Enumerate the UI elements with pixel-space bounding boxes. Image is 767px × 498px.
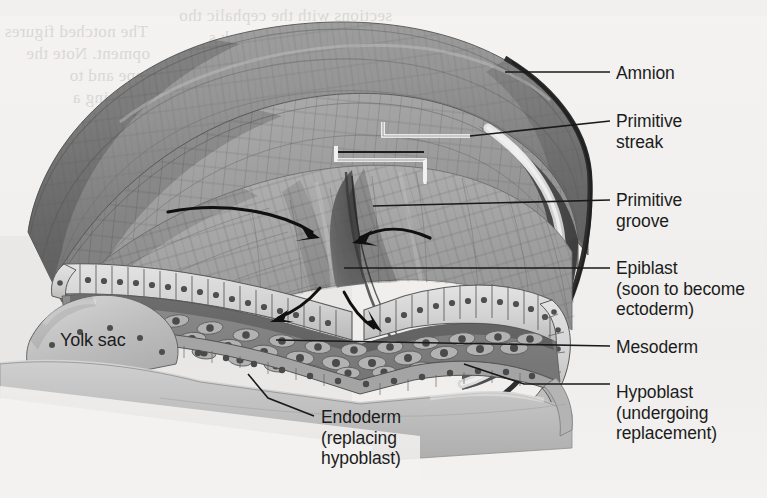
label-mesoderm: Mesoderm: [616, 337, 698, 358]
label-yolk-sac: Yolk sac: [60, 330, 126, 351]
label-epiblast: Epiblast (soon to become ectoderm): [616, 258, 745, 320]
label-amnion: Amnion: [616, 63, 675, 84]
label-primitive-streak: Primitive streak: [616, 111, 682, 152]
label-primitive-groove: Primitive groove: [616, 190, 682, 231]
label-hypoblast: Hypoblast (undergoing replacement): [616, 382, 717, 444]
label-endoderm: Endoderm (replacing hypoblast): [321, 407, 401, 469]
figure-canvas: The notched figures opment. Note the hap…: [0, 0, 767, 498]
